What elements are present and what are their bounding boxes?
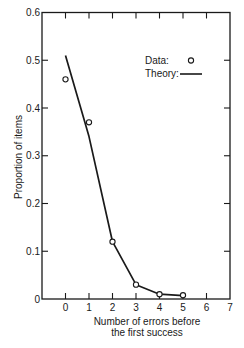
data-point-marker <box>110 239 115 244</box>
y-tick-label: 0.5 <box>26 55 40 66</box>
plot-frame <box>42 13 230 300</box>
x-axis-title-line-2: the first success <box>111 327 183 338</box>
chart: 01234567 00.10.20.30.40.50.6 Data: Theor… <box>0 0 244 348</box>
y-tick-label: 0.4 <box>26 103 40 114</box>
axis-ticks <box>42 13 230 300</box>
plot-border <box>42 13 230 300</box>
data-point-marker <box>180 293 185 298</box>
x-tick-labels: 01234567 <box>63 302 234 313</box>
x-tick-label: 7 <box>227 302 233 313</box>
y-tick-label: 0 <box>34 294 40 305</box>
data-point-marker <box>86 120 91 125</box>
x-tick-label: 0 <box>63 302 69 313</box>
legend-theory-label: Theory: <box>145 68 179 79</box>
y-tick-label: 0.6 <box>26 7 40 18</box>
data-point-marker <box>157 292 162 297</box>
y-axis-title: Proportion of items <box>13 115 24 199</box>
x-tick-label: 1 <box>86 302 92 313</box>
legend-data-marker-icon <box>188 58 193 63</box>
x-tick-label: 3 <box>133 302 139 313</box>
theory-series-line <box>66 56 184 296</box>
y-tick-label: 0.2 <box>26 198 40 209</box>
x-tick-label: 5 <box>180 302 186 313</box>
y-tick-label: 0.3 <box>26 150 40 161</box>
legend: Data: Theory: <box>145 55 202 79</box>
y-tick-labels: 00.10.20.30.40.50.6 <box>26 7 40 305</box>
x-tick-label: 2 <box>110 302 116 313</box>
theory-line-path <box>66 56 184 296</box>
data-point-marker <box>133 282 138 287</box>
x-axis-title-line-1: Number of errors before <box>94 316 201 327</box>
legend-data-label: Data: <box>145 55 169 66</box>
y-tick-label: 0.1 <box>26 246 40 257</box>
data-point-marker <box>63 77 68 82</box>
x-tick-label: 6 <box>204 302 210 313</box>
x-tick-label: 4 <box>157 302 163 313</box>
